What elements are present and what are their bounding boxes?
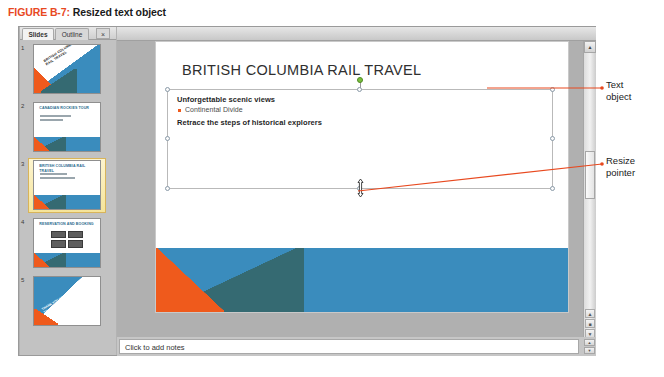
thumbnail-preview: CANADIAN ROCKIES TOUR — [33, 102, 101, 152]
thumb-art-textlines — [40, 115, 93, 123]
thumb-art-teal — [41, 69, 77, 93]
text-object-body[interactable]: Unforgettable scenic views Continental D… — [177, 95, 517, 127]
slide-vertical-scrollbar[interactable]: ▲ ▲ ■ ▼ ▼ — [583, 41, 596, 355]
rotate-handle[interactable] — [357, 77, 363, 83]
slide-thumbnail-pane: Slides Outline × 1 BRITISH COLUMBIA RAIL… — [20, 27, 116, 355]
scroll-up-arrow-icon[interactable]: ▲ — [584, 41, 596, 53]
thumbnail-title: BRITISH COLUMBIA RAIL TRAVEL — [39, 164, 94, 172]
slide-canvas[interactable]: BRITISH COLUMBIA RAIL TRAVEL Unforgettab… — [155, 41, 569, 313]
notes-scroll-up-icon[interactable]: ▲ — [584, 339, 595, 346]
text-line-2-bullet: Continental Divide — [177, 106, 517, 113]
powerpoint-window: Slides Outline × 1 BRITISH COLUMBIA RAIL… — [18, 26, 596, 356]
thumbnail-pane-tabs: Slides Outline × — [20, 27, 116, 40]
text-line-3: Retrace the steps of historical explorer… — [177, 118, 517, 127]
figure-caption: FIGURE B-7: Resized text object — [8, 6, 166, 18]
thumbnail-preview: RESERVATION AND BOOKING — [33, 218, 101, 268]
sizing-handle-bottom-right[interactable] — [550, 186, 555, 191]
thumbnail-slide-5[interactable]: 5 THANK YOU FOR TRAVELING — [28, 276, 102, 328]
previous-slide-button[interactable]: ▲ — [585, 309, 595, 318]
callout-label-text-object: Text object — [606, 79, 662, 102]
thumbnail-number: 3 — [21, 161, 24, 167]
thumbnail-title: CANADIAN ROCKIES TOUR — [39, 106, 94, 110]
sizing-handle-top-right[interactable] — [550, 87, 555, 92]
sizing-handle-top-center[interactable] — [357, 87, 362, 92]
sizing-handle-bottom-left[interactable] — [165, 186, 170, 191]
text-object-placeholder[interactable]: Unforgettable scenic views Continental D… — [167, 89, 553, 189]
thumbnail-number: 5 — [21, 277, 24, 283]
notes-placeholder: Click to add notes — [125, 343, 185, 352]
slide-editing-area: BRITISH COLUMBIA RAIL TRAVEL Unforgettab… — [117, 27, 596, 355]
thumbnail-list[interactable]: 1 BRITISH COLUMBIA RAIL TRAVEL 2 CANADIA… — [20, 40, 112, 355]
sizing-handle-middle-left[interactable] — [165, 136, 170, 141]
thumbnail-preview: BRITISH COLUMBIA RAIL TRAVEL — [33, 160, 101, 210]
callout-label-resize-pointer: Resize pointer — [606, 155, 662, 178]
notes-input[interactable]: Click to add notes — [119, 339, 579, 354]
sizing-handle-middle-right[interactable] — [550, 136, 555, 141]
thumb-art-orange — [34, 253, 49, 267]
scrollbar-thumb[interactable] — [585, 151, 595, 199]
thumbnail-slide-3[interactable]: 3 BRITISH COLUMBIA RAIL TRAVEL — [28, 160, 102, 212]
notes-pane: Click to add notes ▲ ▼ — [117, 337, 596, 356]
sizing-handle-top-left[interactable] — [165, 87, 170, 92]
tab-slides[interactable]: Slides — [22, 28, 54, 40]
slide-show-button[interactable]: ■ — [585, 319, 595, 328]
resize-pointer-icon — [357, 179, 364, 197]
figure-title: Resized text object — [73, 6, 166, 18]
text-line-2-label: Continental Divide — [185, 106, 243, 113]
thumbnail-slide-2[interactable]: 2 CANADIAN ROCKIES TOUR — [28, 102, 102, 154]
figure-number: FIGURE B-7: — [8, 6, 70, 18]
thumb-art-orange — [34, 195, 49, 209]
slide-pane-topbar — [117, 27, 596, 41]
thumbnail-title: RESERVATION AND BOOKING — [39, 222, 94, 226]
slide-art-orange-triangle — [156, 248, 224, 312]
bullet-icon — [178, 109, 181, 112]
close-pane-icon[interactable]: × — [96, 28, 110, 39]
thumbnail-slide-1[interactable]: 1 BRITISH COLUMBIA RAIL TRAVEL — [28, 44, 102, 96]
thumbnail-number: 2 — [21, 103, 24, 109]
thumbnail-preview: BRITISH COLUMBIA RAIL TRAVEL — [33, 44, 101, 94]
thumb-art-orange — [34, 137, 49, 151]
thumbnail-number: 4 — [21, 219, 24, 225]
thumbnail-slide-4[interactable]: 4 RESERVATION AND BOOKING — [28, 218, 102, 270]
slide-title[interactable]: BRITISH COLUMBIA RAIL TRAVEL — [182, 62, 532, 78]
thumb-art-textlines — [40, 173, 93, 181]
tab-outline[interactable]: Outline — [55, 28, 89, 40]
thumb-art-smartart — [51, 231, 83, 248]
thumbnail-preview: THANK YOU FOR TRAVELING — [33, 276, 101, 326]
text-line-1: Unforgettable scenic views — [177, 95, 517, 104]
thumbnail-number: 1 — [21, 45, 24, 51]
notes-scroll-down-icon[interactable]: ▼ — [584, 347, 595, 354]
